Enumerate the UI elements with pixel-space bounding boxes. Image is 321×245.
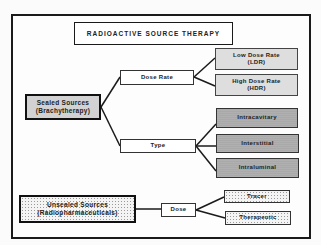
node-low-dose-rate: Low Dose Rate (LDR) xyxy=(215,48,298,70)
node-unsealed-sources: Unsealed Sources (Radiopharmaceuticals) xyxy=(19,195,136,223)
node-tracer: Tracer xyxy=(224,190,290,203)
node-high-dose-rate: High Dose Rate (HDR) xyxy=(215,74,298,96)
node-dose: Dose xyxy=(161,203,196,217)
node-interstitial: Interstitial xyxy=(216,134,299,153)
node-sealed-sources: Sealed Sources (Brachytherapy) xyxy=(25,94,101,120)
node-intraluminal: Intraluminal xyxy=(216,158,299,178)
node-intracavitary: Intracavitary xyxy=(216,108,298,128)
diagram-title: RADIOACTIVE SOURCE THERAPY xyxy=(74,22,233,45)
node-dose-rate: Dose Rate xyxy=(120,70,194,85)
node-type: Type xyxy=(120,139,196,153)
node-therapeutic: Therapeutic xyxy=(225,211,291,225)
